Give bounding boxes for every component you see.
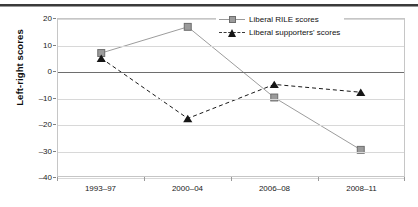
- gridline: [58, 46, 404, 47]
- x-tick-mark: [57, 177, 58, 181]
- y-tick-mark: [53, 98, 56, 99]
- x-tick-mark: [144, 177, 145, 181]
- x-tick-label: 2006–08: [240, 184, 310, 193]
- gridline: [58, 99, 404, 100]
- y-tick-label: –10: [12, 93, 52, 102]
- y-tick-mark: [53, 124, 56, 125]
- gridline: [58, 152, 404, 153]
- y-tick-label: 10: [12, 40, 52, 49]
- legend-item-liberal-supporters-scores: Liberal supporters' scores: [219, 26, 340, 39]
- x-tick-label: 2008–11: [327, 184, 397, 193]
- legend-key-triangle-dashed: [219, 27, 245, 39]
- legend-key-square-solid: [219, 14, 245, 26]
- x-tick-label: 2000–04: [153, 184, 223, 193]
- y-tick-label: 20: [12, 14, 52, 23]
- x-tick-mark: [318, 177, 319, 181]
- triangle-marker-icon: [183, 115, 192, 122]
- y-tick-mark: [53, 71, 56, 72]
- x-tick-mark: [231, 177, 232, 181]
- y-tick-mark: [53, 151, 56, 152]
- y-tick-label: 0: [12, 67, 52, 76]
- chart-figure: Left-right scores 20100–10–20–30–40 1993…: [0, 0, 418, 207]
- y-tick-mark: [53, 18, 56, 19]
- y-tick-label: –30: [12, 146, 52, 155]
- series-line: [101, 58, 361, 118]
- legend-item-liberal-rile-scores: Liberal RILE scores: [219, 13, 340, 26]
- y-tick-mark: [53, 177, 56, 178]
- page-header-rule-secondary: [0, 6, 418, 7]
- square-marker-icon: [271, 94, 278, 101]
- triangle-marker-icon: [228, 29, 236, 37]
- square-marker-icon: [229, 16, 236, 23]
- y-tick-label: –20: [12, 120, 52, 129]
- x-tick-label: 1993–97: [66, 184, 136, 193]
- square-marker-icon: [184, 23, 191, 30]
- zero-line: [58, 72, 404, 73]
- gridline: [58, 125, 404, 126]
- legend-label: Liberal supporters' scores: [249, 28, 340, 37]
- legend-label: Liberal RILE scores: [249, 15, 319, 24]
- y-tick-mark: [53, 45, 56, 46]
- x-tick-mark: [404, 177, 405, 181]
- y-tick-label: –40: [12, 173, 52, 182]
- chart-legend: Liberal RILE scores Liberal supporters' …: [216, 10, 344, 42]
